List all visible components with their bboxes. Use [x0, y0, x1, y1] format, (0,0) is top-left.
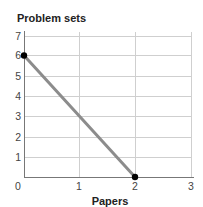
x-axis-title: Papers: [92, 195, 129, 207]
x-tick-2: 2: [132, 180, 138, 192]
vertical-gridlines: [80, 32, 192, 177]
y-tick-5: 5: [15, 70, 21, 82]
y-tick-1: 1: [15, 151, 21, 163]
data-point-0-6: [21, 52, 27, 58]
x-tick-labels: 0 1 2 3: [15, 180, 194, 192]
x-tick-3: 3: [188, 180, 194, 192]
y-tick-6: 6: [15, 49, 21, 61]
y-tick-7: 7: [15, 30, 21, 42]
y-tick-3: 3: [15, 110, 21, 122]
y-tick-2: 2: [15, 131, 21, 143]
data-point-2-0: [132, 174, 138, 180]
x-tick-0: 0: [15, 180, 21, 192]
x-tick-1: 1: [76, 180, 82, 192]
y-tick-labels: 7 6 5 4 3 2 1: [15, 30, 21, 163]
horizontal-gridlines: [24, 37, 192, 158]
y-tick-4: 4: [15, 90, 21, 102]
ppf-chart: Problem sets 7 6 5 4 3 2 1 0 1 2 3 Paper…: [0, 0, 203, 207]
y-axis-title: Problem sets: [17, 12, 86, 24]
